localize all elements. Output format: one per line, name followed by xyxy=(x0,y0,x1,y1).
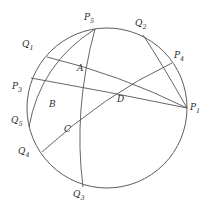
diagram-canvas xyxy=(0,0,206,212)
boundary-point-label-p5: P5 xyxy=(84,13,94,24)
hyperbolic-geodesic-figure: P1P3P4P5Q1Q2Q3Q4Q5ABCD xyxy=(0,0,206,212)
boundary-point-label-q2: Q2 xyxy=(135,19,147,30)
boundary-point-label-p3: P3 xyxy=(12,82,22,93)
label-base: A xyxy=(77,63,84,73)
boundary-point-label-q5: Q5 xyxy=(11,116,23,127)
label-base: D xyxy=(117,94,124,104)
label-subscript: 1 xyxy=(29,44,33,52)
label-base: B xyxy=(49,99,56,109)
label-subscript: 3 xyxy=(80,194,84,202)
interior-point-label-d: D xyxy=(117,95,124,104)
label-subscript: 5 xyxy=(18,120,22,128)
boundary-point-label-p1: P1 xyxy=(190,103,200,114)
interior-point-label-a: A xyxy=(77,64,84,73)
geodesic-p4-q4 xyxy=(42,63,172,152)
interior-point-label-c: C xyxy=(64,125,71,134)
boundary-point-label-q1: Q1 xyxy=(22,40,34,51)
label-subscript: 2 xyxy=(142,23,146,31)
boundary-point-label-q4: Q4 xyxy=(18,147,30,158)
interior-point-label-b: B xyxy=(49,100,56,109)
geodesic-p5-q5 xyxy=(29,29,95,127)
label-subscript: 3 xyxy=(18,86,22,94)
boundary-point-label-q3: Q3 xyxy=(73,190,85,201)
label-base: C xyxy=(64,124,71,134)
boundary-point-label-p4: P4 xyxy=(174,51,184,62)
label-subscript: 1 xyxy=(196,107,200,115)
geodesic-q2-p1 xyxy=(143,35,187,108)
label-subscript: 4 xyxy=(25,151,29,159)
geodesic-p5-q3 xyxy=(80,29,95,187)
label-subscript: 5 xyxy=(90,17,94,25)
label-subscript: 4 xyxy=(180,55,184,63)
